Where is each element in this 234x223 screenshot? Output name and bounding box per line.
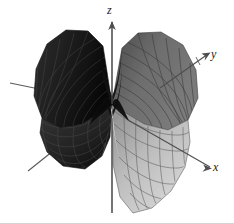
surface-plot-figure: z y x: [0, 0, 234, 223]
y-arrowhead-icon: [202, 53, 211, 61]
x-axis-label: x: [213, 161, 218, 173]
y-axis-label: y: [211, 48, 216, 60]
y-axis-tick: [196, 57, 200, 65]
axis-ticks: [196, 57, 200, 65]
surface-plot-canvas: [0, 0, 234, 223]
z-axis-label: z: [107, 4, 112, 16]
